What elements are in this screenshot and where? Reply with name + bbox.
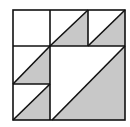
quilt-block-diagram [0,0,130,127]
